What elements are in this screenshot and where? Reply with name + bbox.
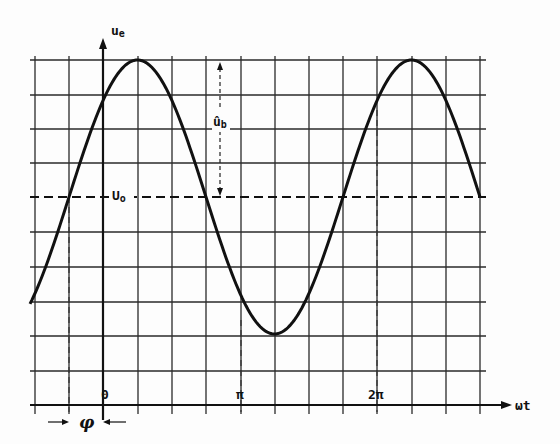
sine-diagram-svg: ue ωt Uo ûb 0 π 2π φ	[0, 0, 560, 444]
x-axis-label: ωt	[515, 398, 531, 413]
amplitude-arrow-down-icon	[217, 188, 223, 196]
phase-label: φ	[79, 412, 95, 432]
diagram: ue ωt Uo ûb 0 π 2π φ	[0, 0, 560, 444]
phase-arrow-right-icon	[62, 419, 69, 425]
y-axis-label: ue	[111, 23, 125, 39]
x-axis-arrow-icon	[501, 401, 512, 409]
tick-pi: π	[236, 387, 244, 402]
y-axis-arrow-icon	[99, 38, 107, 49]
tick-origin: 0	[101, 387, 109, 402]
amplitude-arrow-up-icon	[217, 62, 223, 70]
tick-two-pi: 2π	[368, 387, 384, 402]
